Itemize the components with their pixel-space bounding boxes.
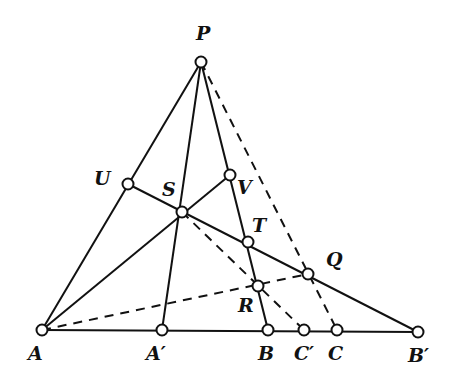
label-c1: C′	[294, 342, 314, 364]
points	[37, 57, 424, 338]
geometry-diagram: PUSVTRQAA′BC′CB′	[0, 0, 461, 392]
point-u	[123, 179, 134, 190]
label-t: T	[252, 214, 268, 236]
label-r: R	[237, 294, 254, 316]
label-v: V	[237, 176, 254, 198]
point-r	[253, 281, 264, 292]
point-c1	[299, 325, 310, 336]
point-labels: PUSVTRQAA′BC′CB′	[26, 22, 429, 366]
label-a: A	[26, 342, 43, 364]
segment-a-b1	[42, 330, 418, 332]
point-a1	[157, 325, 168, 336]
point-b	[263, 325, 274, 336]
point-q	[303, 269, 314, 280]
label-b: B	[257, 342, 274, 364]
segment-a-q	[42, 274, 308, 330]
label-s: S	[162, 178, 176, 200]
label-u: U	[94, 167, 112, 189]
segment-p-c	[201, 62, 337, 330]
label-b1: B′	[407, 344, 429, 366]
line-segments	[42, 62, 418, 332]
label-p: P	[195, 22, 211, 44]
point-b1	[413, 327, 424, 338]
point-t	[243, 237, 254, 248]
label-q: Q	[326, 248, 343, 270]
point-s	[177, 207, 188, 218]
point-a	[37, 325, 48, 336]
point-v	[225, 170, 236, 181]
label-c: C	[328, 342, 343, 364]
point-c	[332, 325, 343, 336]
label-a1: A′	[144, 342, 166, 364]
segment-p-a	[42, 62, 201, 330]
point-p	[196, 57, 207, 68]
segment-a-v	[42, 175, 230, 330]
